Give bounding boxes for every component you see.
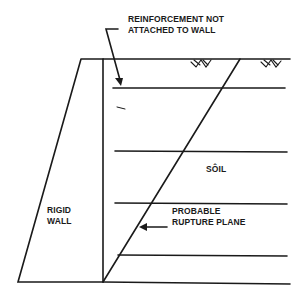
soil-label: SÔIL — [206, 164, 226, 175]
rupture-plane-label-line2: RUPTURE PLANE — [172, 217, 246, 228]
rupture-arrowhead-icon — [139, 223, 147, 231]
reinforcement-layer-2 — [115, 151, 287, 152]
reinforcement-layer-4 — [118, 255, 287, 256]
reinforcement-label-line1: REINFORCEMENT NOT — [128, 14, 224, 25]
reinforcement-arrowhead-icon — [115, 78, 123, 86]
diagram-drawing — [0, 0, 305, 307]
rigid-wall-outline — [18, 59, 103, 282]
reinforcement-layer-3 — [115, 203, 287, 204]
reinforcement-label: REINFORCEMENT NOT ATTACHED TO WALL — [128, 14, 224, 36]
reinforcement-label-line2: ATTACHED TO WALL — [128, 25, 224, 36]
stray-mark — [117, 107, 125, 109]
grass-symbol-1 — [191, 60, 211, 67]
rigid-wall-label-line2: WALL — [47, 216, 71, 227]
reinforcement-leader-line — [106, 29, 120, 80]
rupture-plane-label-line1: PROBABLE — [172, 206, 246, 217]
rigid-wall-label-line1: RIGID — [47, 205, 71, 216]
rigid-wall-label: RIGID WALL — [47, 205, 71, 227]
rupture-plane-label: PROBABLE RUPTURE PLANE — [172, 206, 246, 228]
base-line — [103, 282, 290, 284]
grass-symbol-2 — [261, 60, 281, 67]
retaining-wall-diagram: REINFORCEMENT NOT ATTACHED TO WALL SÔIL … — [0, 0, 305, 307]
